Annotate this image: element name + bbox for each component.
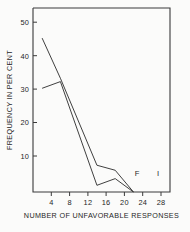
series-line-f bbox=[42, 38, 133, 192]
x-tick-label-4: 4 bbox=[49, 198, 53, 207]
y-axis-title: FREQUENCY IN PER CENT bbox=[5, 50, 14, 150]
series-annotation-f: F bbox=[135, 169, 140, 178]
frequency-polygon-chart: 50 40 30 20 10 4 8 12 16 20 24 28 bbox=[0, 0, 190, 232]
y-tick-label-40: 40 bbox=[20, 52, 29, 61]
y-tick-label-20: 20 bbox=[20, 118, 29, 127]
series-annotation-i: I bbox=[157, 169, 159, 178]
y-tick-label-10: 10 bbox=[20, 152, 29, 161]
x-axis-tick-labels: 4 8 12 16 20 24 28 bbox=[49, 198, 165, 207]
x-axis-ticks bbox=[51, 192, 161, 196]
x-tick-label-16: 16 bbox=[102, 198, 111, 207]
x-axis-title: NUMBER OF UNFAVORABLE RESPONSES bbox=[24, 211, 179, 220]
x-tick-label-12: 12 bbox=[84, 198, 93, 207]
y-axis-tick-labels: 50 40 30 20 10 bbox=[20, 18, 29, 161]
chart-figure: 50 40 30 20 10 4 8 12 16 20 24 28 bbox=[0, 0, 190, 232]
y-tick-label-30: 30 bbox=[20, 85, 29, 94]
y-tick-label-50: 50 bbox=[20, 18, 29, 27]
plot-frame bbox=[33, 8, 170, 192]
x-tick-label-8: 8 bbox=[67, 198, 71, 207]
x-tick-label-20: 20 bbox=[120, 198, 129, 207]
x-tick-label-28: 28 bbox=[157, 198, 166, 207]
y-axis-ticks bbox=[33, 22, 37, 156]
x-tick-label-24: 24 bbox=[138, 198, 147, 207]
